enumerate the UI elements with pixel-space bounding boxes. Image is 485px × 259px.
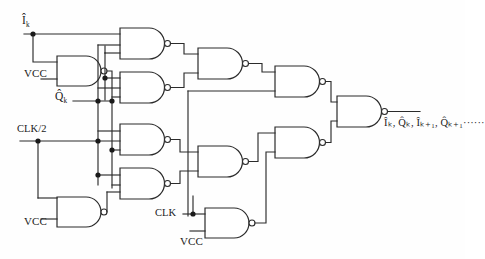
wire-g4-out — [171, 140, 199, 153]
wire-g11-out — [326, 121, 338, 143]
input-label-vcc-bottom: VCC — [24, 216, 47, 227]
gate-nand-5 — [120, 168, 171, 199]
gate-nand-7 — [198, 48, 249, 79]
junction-dot — [95, 98, 100, 103]
junction-dot — [190, 211, 195, 216]
gate-nand-11 — [275, 127, 326, 158]
input-label-q-k: Q̂k — [55, 91, 67, 103]
gate-nand-10 — [275, 66, 326, 97]
gate-nand-8 — [198, 146, 249, 177]
wire-g3-inputs — [98, 78, 120, 97]
wire-g8-out — [249, 133, 276, 162]
gate-nand-6 — [57, 197, 107, 227]
wire-g5-inputs — [98, 175, 120, 192]
junction-dot — [109, 147, 114, 152]
input-label-i-k: Îk — [22, 15, 30, 27]
junction-dot — [95, 138, 100, 143]
junction-dot — [30, 31, 35, 36]
wire-g10-out — [326, 82, 338, 103]
wire-g1-out — [171, 44, 199, 55]
input-label-clk2: CLK/2 — [17, 124, 47, 135]
gate-nand-4 — [120, 124, 171, 155]
input-label-vcc-top: VCC — [24, 68, 47, 79]
junction-dot — [95, 172, 100, 177]
gate-nand-1 — [120, 28, 171, 59]
wire-g7-out — [249, 64, 276, 73]
gate-nand-3 — [120, 72, 171, 103]
input-label-vcc-clk: VCC — [180, 236, 203, 247]
gate-nand-12 — [337, 96, 388, 127]
gate-nand-9 — [205, 208, 255, 238]
output-label-bus: Îₖ, Q̂ₖ, Îₖ₊₁, Q̂ₖ₊₁······ — [384, 118, 485, 129]
wire-bus-b — [98, 45, 120, 185]
gate-nand-2 — [57, 56, 107, 86]
junction-dot — [35, 138, 40, 143]
wire-g5-out — [171, 171, 199, 184]
input-label-clk: CLK — [155, 208, 176, 219]
wire-g3-out — [171, 73, 199, 88]
junction-dot — [102, 75, 107, 80]
wire-clk-rail — [183, 196, 205, 214]
junction-dot — [109, 98, 114, 103]
wire-g9-out — [255, 152, 275, 223]
wire-clk2-rail — [20, 141, 120, 198]
